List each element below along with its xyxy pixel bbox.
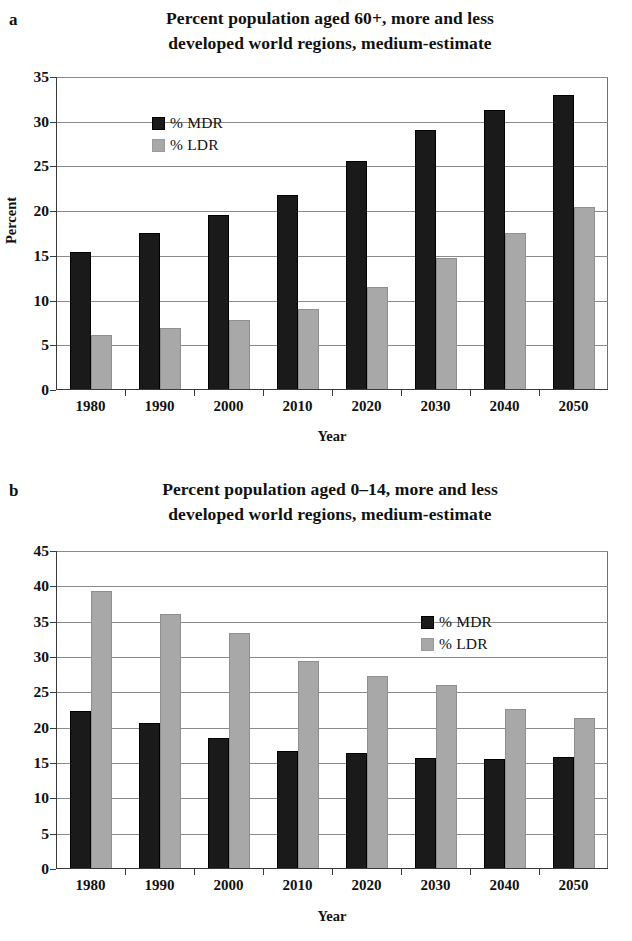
x-tick-mark [401, 390, 402, 396]
legend-swatch-mdr-icon [152, 117, 165, 130]
bars-layer-a [56, 77, 608, 390]
bar-group-1980 [56, 77, 125, 390]
panel-letter-a: a [9, 10, 18, 30]
bar-ldr-2030 [436, 685, 457, 869]
bar-group-2040 [470, 77, 539, 390]
legend-b: % MDR % LDR [421, 611, 492, 655]
y-tick-mark [50, 256, 56, 257]
chart-title-a-line2: developed world regions, medium-estimate [70, 31, 590, 56]
bar-group-1980 [56, 551, 125, 869]
bar-group-2010 [263, 77, 332, 390]
y-tick-mark [50, 622, 56, 623]
y-tick-mark [50, 211, 56, 212]
bar-mdr-2040 [484, 110, 505, 390]
y-axis-line-a [56, 77, 57, 390]
bars-layer-b [56, 551, 608, 869]
y-tick-label: 25 [15, 683, 49, 701]
y-tick-label: 35 [15, 612, 49, 630]
y-tick-label: 20 [15, 202, 49, 220]
chart-title-a: Percent population aged 60+, more and le… [70, 6, 590, 57]
x-axis-label-a: Year [56, 428, 608, 445]
bar-group-2050 [539, 551, 608, 869]
legend-swatch-ldr-icon [421, 638, 434, 651]
bar-mdr-2050 [553, 95, 574, 390]
chart-title-b: Percent population aged 0–14, more and l… [70, 477, 590, 528]
bar-group-2050 [539, 77, 608, 390]
bar-ldr-2020 [367, 676, 388, 869]
x-tick-mark [470, 390, 471, 396]
y-tick-label: 35 [15, 68, 49, 86]
legend-item-ldr: % LDR [152, 134, 223, 156]
bar-group-2010 [263, 551, 332, 869]
y-tick-mark [50, 345, 56, 346]
bar-mdr-2020 [346, 753, 367, 869]
x-tick-label-2050: 2050 [559, 398, 589, 415]
legend-label-mdr: % MDR [439, 613, 492, 631]
bar-mdr-2010 [277, 751, 298, 869]
bar-mdr-2030 [415, 758, 436, 869]
x-tick-labels-b: 19801990200020102020203020402050 [56, 877, 608, 899]
y-tick-label: 0 [15, 381, 49, 399]
legend-label-mdr: % MDR [170, 114, 223, 132]
chart-title-b-line2: developed world regions, medium-estimate [70, 502, 590, 527]
bar-ldr-1980 [91, 335, 112, 390]
x-tick-labels-a: 19801990200020102020203020402050 [56, 398, 608, 420]
y-tick-label: 25 [15, 157, 49, 175]
y-tick-mark [50, 586, 56, 587]
legend-a: % MDR % LDR [152, 112, 223, 156]
x-tick-mark [539, 869, 540, 875]
x-tick-label-2000: 2000 [214, 398, 244, 415]
bar-mdr-2000 [208, 738, 229, 869]
legend-label-ldr: % LDR [439, 635, 488, 653]
bar-mdr-2010 [277, 195, 298, 390]
figure-panel-a: a Percent population aged 60+, more and … [0, 0, 632, 470]
chart-title-a-line1: Percent population aged 60+, more and le… [70, 6, 590, 31]
y-axis-line-b [56, 551, 57, 869]
x-tick-label-1980: 1980 [76, 398, 106, 415]
bar-ldr-2010 [298, 661, 319, 869]
bar-mdr-2000 [208, 215, 229, 390]
legend-swatch-mdr-icon [421, 616, 434, 629]
y-tick-label: 20 [15, 718, 49, 736]
bar-mdr-1980 [70, 252, 91, 390]
bar-group-2000 [194, 551, 263, 869]
x-tick-label-1990: 1990 [145, 398, 175, 415]
y-tick-label: 30 [15, 112, 49, 130]
y-tick-label: 15 [15, 246, 49, 264]
bar-ldr-1980 [91, 591, 112, 869]
y-tick-mark [50, 763, 56, 764]
y-tick-label: 0 [15, 860, 49, 878]
bar-mdr-2050 [553, 757, 574, 869]
x-tick-mark [194, 869, 195, 875]
y-tick-mark [50, 122, 56, 123]
bar-group-2030 [401, 551, 470, 869]
legend-swatch-ldr-icon [152, 139, 165, 152]
bar-group-2040 [470, 551, 539, 869]
y-tick-label: 40 [15, 577, 49, 595]
bar-ldr-2040 [505, 233, 526, 390]
y-tick-label: 5 [15, 824, 49, 842]
chart-title-b-line1: Percent population aged 0–14, more and l… [70, 477, 590, 502]
bar-mdr-1990 [139, 723, 160, 869]
y-tick-mark [50, 869, 56, 870]
x-tick-mark [194, 390, 195, 396]
legend-item-ldr: % LDR [421, 633, 492, 655]
x-tick-mark [470, 869, 471, 875]
x-tick-mark [263, 869, 264, 875]
bar-mdr-2030 [415, 130, 436, 390]
x-tick-label-2030: 2030 [421, 877, 451, 894]
y-tick-mark [50, 77, 56, 78]
bar-ldr-2050 [574, 718, 595, 869]
x-tick-label-2020: 2020 [352, 877, 382, 894]
bar-group-2020 [332, 77, 401, 390]
figure-panel-b: b Percent population aged 0–14, more and… [0, 465, 632, 941]
y-tick-mark [50, 166, 56, 167]
y-tick-mark [50, 798, 56, 799]
bar-mdr-2040 [484, 759, 505, 869]
bar-ldr-2040 [505, 709, 526, 869]
y-tick-mark [50, 692, 56, 693]
x-tick-mark [401, 869, 402, 875]
x-tick-mark [332, 390, 333, 396]
y-tick-mark [50, 301, 56, 302]
x-tick-mark [125, 869, 126, 875]
